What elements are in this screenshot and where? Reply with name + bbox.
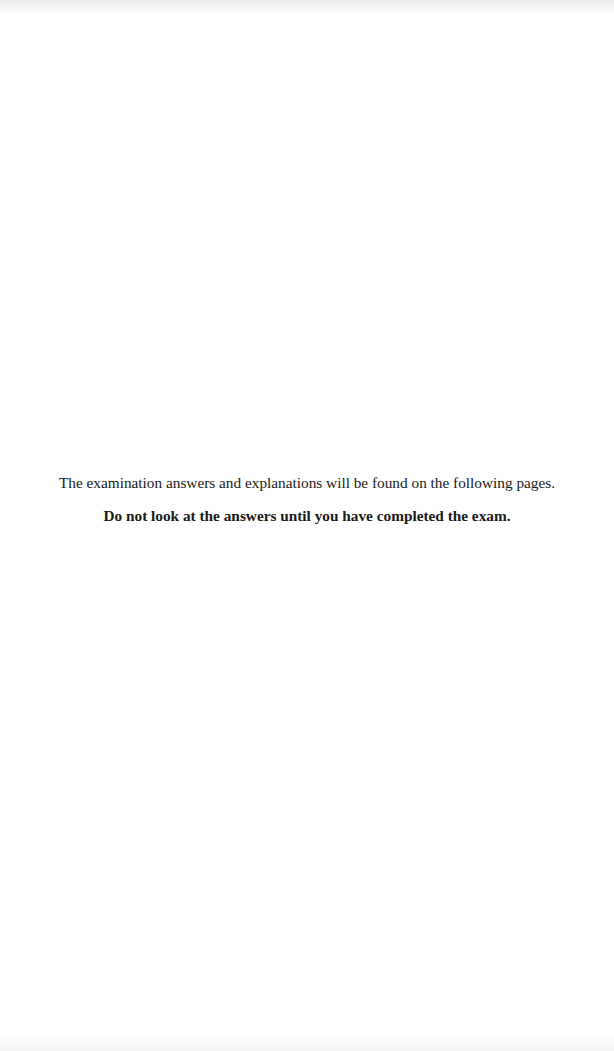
- answers-location-note: The examination answers and explanations…: [0, 474, 614, 492]
- exam-warning-note: Do not look at the answers until you hav…: [0, 507, 614, 525]
- page-top-bleed-through: [0, 0, 614, 14]
- page-bottom-bleed-through: [0, 1035, 614, 1051]
